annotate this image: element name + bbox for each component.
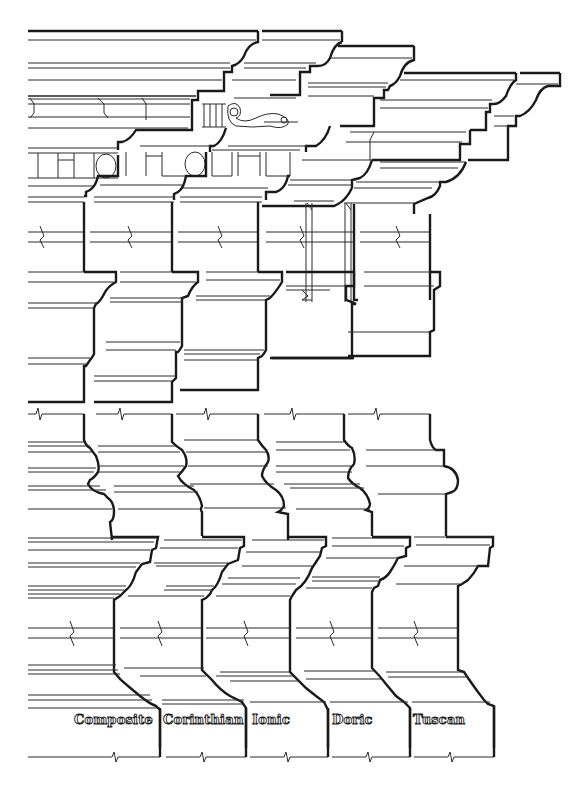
label-corinthian: Corinthian — [163, 712, 244, 727]
ionic-entablature — [180, 46, 414, 202]
label-doric: Doric — [332, 712, 373, 727]
label-ionic: Ionic — [252, 712, 290, 727]
order-labels: Composite Corinthian Ionic Doric Tuscan — [74, 712, 466, 727]
tuscan-entablature — [344, 73, 560, 214]
frieze-break-lines — [28, 202, 430, 300]
column-base-group — [28, 408, 458, 540]
pedestal-break-lines — [28, 621, 458, 646]
capital-group — [28, 272, 440, 402]
label-composite: Composite — [74, 712, 153, 727]
orders-plate: Composite Corinthian Ionic Doric Tuscan — [0, 0, 587, 789]
modillion-scroll-ornament — [202, 103, 288, 127]
pedestal-base-lines — [28, 665, 490, 708]
label-tuscan: Tuscan — [413, 712, 466, 727]
entablature-group — [28, 31, 560, 302]
